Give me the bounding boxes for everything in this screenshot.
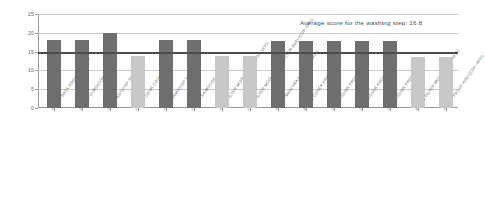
y-tick-label: 0 <box>31 106 34 111</box>
bar-slot <box>383 14 398 108</box>
average-reference-line <box>38 52 458 54</box>
bar[interactable] <box>47 40 62 108</box>
y-axis: 0510152025 <box>0 14 38 108</box>
y-tick-label: 5 <box>31 87 34 92</box>
bar-slot <box>327 14 342 108</box>
bar[interactable] <box>159 40 174 108</box>
bar-slot <box>243 14 258 108</box>
bars-layer <box>38 14 458 108</box>
bar-slot <box>103 14 118 108</box>
bar-slot <box>159 14 174 108</box>
y-tick-label: 25 <box>28 12 34 17</box>
average-score-annotation: Average score for the washing step: 16.8 <box>300 19 422 26</box>
x-axis-labels: COVER BACK ASSY(COP-3400)POWER CORD(COP-… <box>38 109 458 206</box>
y-tick-label: 20 <box>28 30 34 35</box>
bar-slot <box>411 14 426 108</box>
bar[interactable] <box>187 40 202 108</box>
bar-slot <box>271 14 286 108</box>
bar[interactable] <box>75 40 90 108</box>
bar-slot <box>187 14 202 108</box>
y-tick-label: 15 <box>28 49 34 54</box>
bar[interactable] <box>439 57 454 108</box>
bar-slot <box>299 14 314 108</box>
bar[interactable] <box>103 33 118 108</box>
bar-slot <box>131 14 146 108</box>
bar[interactable] <box>411 57 426 108</box>
bar-slot <box>215 14 230 108</box>
bar[interactable] <box>243 56 258 108</box>
bar[interactable] <box>215 56 230 108</box>
bar-slot <box>439 14 454 108</box>
bar-slot <box>75 14 90 108</box>
bar-slot <box>47 14 62 108</box>
y-tick-label: 10 <box>28 68 34 73</box>
bar[interactable] <box>131 56 146 108</box>
bar-slot <box>355 14 370 108</box>
plot-area <box>38 14 458 108</box>
